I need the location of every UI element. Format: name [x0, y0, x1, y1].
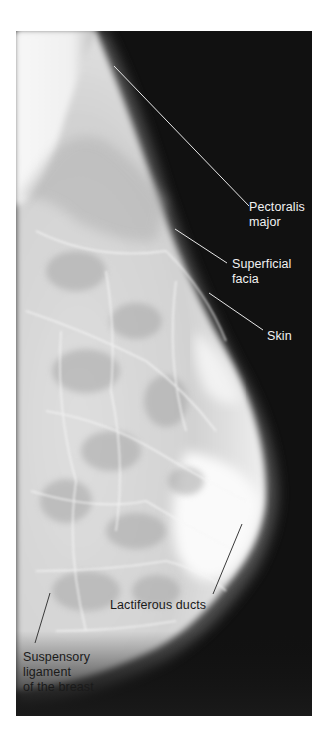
label-pectoralis-major: Pectoralis major — [249, 200, 305, 230]
label-lactiferous-ducts: Lactiferous ducts — [110, 598, 206, 613]
mammogram-image — [16, 31, 312, 716]
label-superficial-facia: Superficial facia — [232, 257, 291, 287]
mammogram-figure: Pectoralis major Superficial facia Skin … — [16, 31, 312, 716]
label-suspensory-ligament: Suspensory ligament of the breast — [23, 650, 94, 695]
label-skin: Skin — [267, 329, 292, 344]
